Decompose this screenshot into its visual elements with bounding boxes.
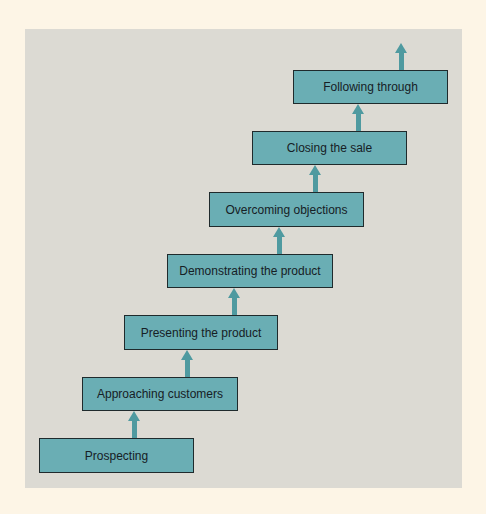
step-label: Overcoming objections [225,203,347,217]
step-overcoming-objections: Overcoming objections [209,192,364,227]
step-following-through: Following through [293,70,448,104]
step-demonstrating-the-product: Demonstrating the product [167,254,333,288]
step-presenting-the-product: Presenting the product [124,315,278,350]
step-closing-the-sale: Closing the sale [252,131,407,165]
step-label: Following through [323,80,418,94]
step-prospecting: Prospecting [39,438,194,473]
step-label: Closing the sale [287,141,372,155]
step-approaching-customers: Approaching customers [82,377,238,411]
step-label: Prospecting [85,449,148,463]
step-label: Approaching customers [97,387,223,401]
step-label: Presenting the product [141,326,262,340]
step-label: Demonstrating the product [179,264,320,278]
